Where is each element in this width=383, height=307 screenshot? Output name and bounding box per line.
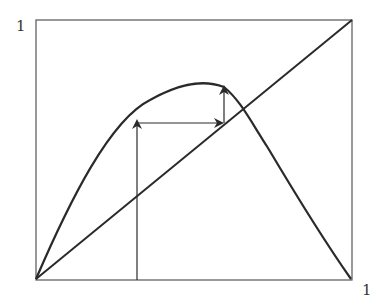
diagonal-identity-line <box>36 20 352 279</box>
map-curve <box>36 83 351 279</box>
y-axis-max-label: 1 <box>16 19 26 34</box>
cobweb-diagram <box>0 0 383 307</box>
x-axis-max-label: 1 <box>362 283 372 298</box>
